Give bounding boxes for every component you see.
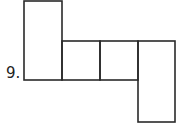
net-face-square-1 <box>62 41 100 80</box>
net-face-square-2 <box>100 41 138 80</box>
net-face-right-tall <box>138 41 175 122</box>
net-face-left-tall <box>24 1 62 80</box>
net-diagram <box>0 0 182 125</box>
